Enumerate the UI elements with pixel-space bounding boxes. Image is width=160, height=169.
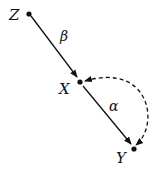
edge-z-x-label: β xyxy=(59,28,68,44)
edge-z-x xyxy=(31,16,77,77)
node-y-label: Y xyxy=(116,149,128,167)
edge-x-y xyxy=(83,86,131,144)
node-x-dot xyxy=(77,79,82,84)
node-z-label: Z xyxy=(8,6,20,24)
node-x-label: X xyxy=(58,80,71,98)
edge-x-y-label: α xyxy=(109,98,119,114)
causal-diagram: Z X Y β α xyxy=(0,0,160,169)
node-z-dot xyxy=(26,11,31,16)
node-y-dot xyxy=(131,146,136,151)
